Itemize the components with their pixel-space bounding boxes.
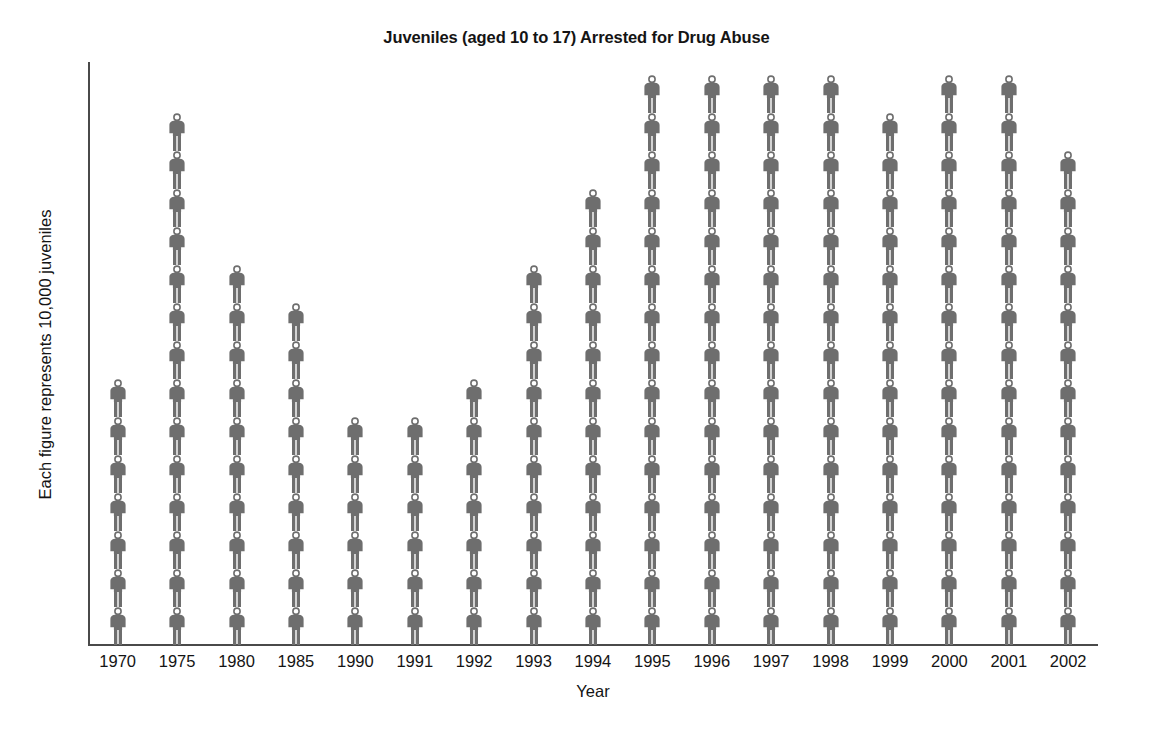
y-axis-label-container: Each figure represents 10,000 juveniles <box>32 62 60 646</box>
person-figure-icon <box>224 379 250 417</box>
person-figure-icon <box>639 493 665 531</box>
pictogram-column <box>563 62 622 645</box>
person-figure-icon <box>105 607 131 645</box>
pictogram-chart: Juveniles (aged 10 to 17) Arrested for D… <box>0 0 1153 740</box>
person-figure-icon <box>580 379 606 417</box>
person-figure-icon <box>164 569 190 607</box>
person-figure-icon <box>639 531 665 569</box>
person-figure-icon <box>758 493 784 531</box>
x-axis-tick-labels: 1970197519801985199019911992199319941995… <box>88 646 1098 674</box>
person-figure-icon <box>758 455 784 493</box>
person-figure-icon <box>1055 227 1081 265</box>
pictogram-column <box>266 62 325 645</box>
person-figure-icon <box>1055 265 1081 303</box>
person-figure-icon <box>580 227 606 265</box>
person-figure-icon <box>758 303 784 341</box>
person-figure-icon <box>402 531 428 569</box>
person-figure-icon <box>283 607 309 645</box>
person-figure-icon <box>521 341 547 379</box>
person-figure-icon <box>1055 341 1081 379</box>
person-figure-icon <box>283 569 309 607</box>
person-figure-icon <box>224 569 250 607</box>
person-figure-icon <box>283 417 309 455</box>
person-figure-icon <box>699 151 725 189</box>
person-figure-icon <box>164 227 190 265</box>
person-figure-icon <box>521 303 547 341</box>
person-figure-icon <box>699 227 725 265</box>
person-figure-icon <box>818 569 844 607</box>
person-figure-icon <box>639 455 665 493</box>
y-axis-label: Each figure represents 10,000 juveniles <box>37 209 56 499</box>
person-figure-icon <box>224 531 250 569</box>
x-axis-tick-label: 1994 <box>563 646 622 674</box>
person-figure-icon <box>936 113 962 151</box>
person-figure-icon <box>521 455 547 493</box>
person-figure-icon <box>1055 455 1081 493</box>
pictogram-column <box>920 62 979 645</box>
person-figure-icon <box>877 151 903 189</box>
person-figure-icon <box>1055 607 1081 645</box>
person-figure-icon <box>164 113 190 151</box>
pictogram-column <box>623 62 682 645</box>
chart-title: Juveniles (aged 10 to 17) Arrested for D… <box>0 28 1153 47</box>
person-figure-icon <box>699 341 725 379</box>
person-figure-icon <box>580 303 606 341</box>
person-figure-icon <box>461 607 487 645</box>
person-figure-icon <box>818 227 844 265</box>
person-figure-icon <box>758 151 784 189</box>
person-figure-icon <box>936 265 962 303</box>
pictogram-column <box>147 62 206 645</box>
person-figure-icon <box>996 189 1022 227</box>
person-figure-icon <box>164 265 190 303</box>
x-axis-tick-label: 1999 <box>860 646 919 674</box>
person-figure-icon <box>521 493 547 531</box>
person-figure-icon <box>877 455 903 493</box>
person-figure-icon <box>818 379 844 417</box>
person-figure-icon <box>936 151 962 189</box>
person-figure-icon <box>342 455 368 493</box>
person-figure-icon <box>996 265 1022 303</box>
person-figure-icon <box>818 265 844 303</box>
person-figure-icon <box>224 493 250 531</box>
person-figure-icon <box>224 341 250 379</box>
person-figure-icon <box>521 607 547 645</box>
person-figure-icon <box>105 417 131 455</box>
person-figure-icon <box>758 341 784 379</box>
person-figure-icon <box>639 417 665 455</box>
person-figure-icon <box>818 531 844 569</box>
person-figure-icon <box>639 113 665 151</box>
person-figure-icon <box>699 455 725 493</box>
person-figure-icon <box>164 303 190 341</box>
person-figure-icon <box>758 265 784 303</box>
x-axis-tick-label: 2002 <box>1039 646 1098 674</box>
person-figure-icon <box>877 569 903 607</box>
person-figure-icon <box>996 417 1022 455</box>
x-axis-tick-label: 1975 <box>147 646 206 674</box>
person-figure-icon <box>699 113 725 151</box>
x-axis-tick-label: 1995 <box>623 646 682 674</box>
person-figure-icon <box>580 265 606 303</box>
person-figure-icon <box>758 227 784 265</box>
person-figure-icon <box>818 113 844 151</box>
person-figure-icon <box>936 531 962 569</box>
person-figure-icon <box>996 607 1022 645</box>
person-figure-icon <box>1055 493 1081 531</box>
person-figure-icon <box>639 151 665 189</box>
pictogram-column <box>385 62 444 645</box>
x-axis-tick-label: 1991 <box>385 646 444 674</box>
x-axis-tick-label: 1970 <box>88 646 147 674</box>
person-figure-icon <box>639 379 665 417</box>
person-figure-icon <box>521 417 547 455</box>
person-figure-icon <box>818 455 844 493</box>
person-figure-icon <box>164 493 190 531</box>
person-figure-icon <box>758 417 784 455</box>
person-figure-icon <box>758 531 784 569</box>
x-axis-tick-label: 1992 <box>444 646 503 674</box>
person-figure-icon <box>877 531 903 569</box>
person-figure-icon <box>996 569 1022 607</box>
person-figure-icon <box>402 569 428 607</box>
person-figure-icon <box>936 455 962 493</box>
person-figure-icon <box>936 189 962 227</box>
x-axis-tick-label: 1996 <box>682 646 741 674</box>
person-figure-icon <box>699 265 725 303</box>
